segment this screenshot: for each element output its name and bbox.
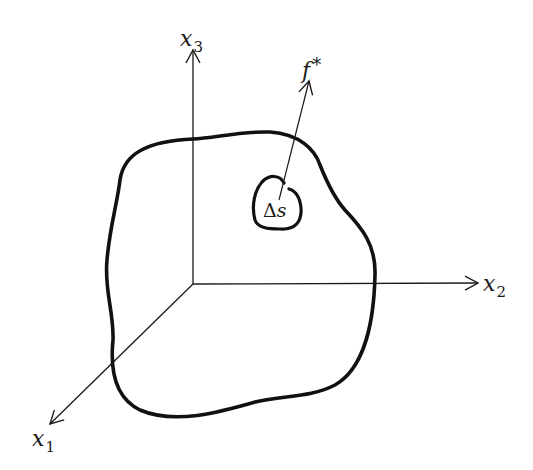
axis-label-x1: x1 — [32, 428, 55, 450]
axis-x1 — [50, 284, 193, 424]
surface-element-label: Δs — [263, 201, 287, 220]
diagram-figure — [0, 0, 533, 470]
body-boundary — [106, 132, 375, 417]
force-label: f* — [302, 60, 321, 82]
axis-label-x2: x2 — [483, 273, 506, 295]
axis-x2 — [193, 283, 478, 284]
force-vector — [279, 81, 309, 200]
axis-label-x3: x3 — [180, 28, 203, 50]
